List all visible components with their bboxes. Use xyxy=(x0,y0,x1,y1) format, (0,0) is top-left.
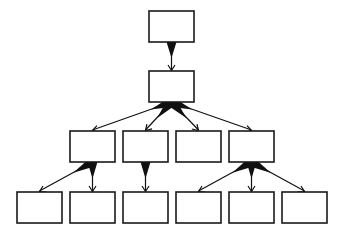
edge-arrow xyxy=(249,158,304,192)
tree-node-level-2 xyxy=(70,131,115,162)
edge-arrow xyxy=(199,158,254,192)
node-box xyxy=(17,192,62,223)
tree-node-level-0 xyxy=(149,11,194,42)
edge-line xyxy=(199,162,252,191)
edge-arrow xyxy=(167,42,177,71)
edges-layer xyxy=(40,42,305,192)
node-box xyxy=(229,131,274,162)
node-box xyxy=(123,192,168,223)
node-box xyxy=(282,192,327,223)
tree-node-level-3 xyxy=(229,192,274,223)
tree-diagram xyxy=(0,0,340,240)
tree-node-level-2 xyxy=(123,131,168,162)
node-box xyxy=(176,192,221,223)
edge-arrow xyxy=(141,162,151,192)
tree-node-level-3 xyxy=(176,192,221,223)
tree-node-level-2 xyxy=(229,131,274,162)
node-box xyxy=(70,192,115,223)
node-box xyxy=(149,71,194,102)
tree-node-level-2 xyxy=(176,131,221,162)
edge-line xyxy=(252,162,305,191)
tree-node-level-3 xyxy=(123,192,168,223)
tree-node-level-3 xyxy=(17,192,62,223)
node-box xyxy=(229,192,274,223)
tree-node-level-1 xyxy=(149,71,194,102)
edge-arrow xyxy=(88,162,98,192)
node-box xyxy=(70,131,115,162)
edge-line xyxy=(40,162,93,191)
tree-node-level-3 xyxy=(70,192,115,223)
edge-arrow xyxy=(40,158,95,192)
nodes-layer xyxy=(17,11,327,223)
node-box xyxy=(176,131,221,162)
node-box xyxy=(149,11,194,42)
node-box xyxy=(123,131,168,162)
tree-node-level-3 xyxy=(282,192,327,223)
